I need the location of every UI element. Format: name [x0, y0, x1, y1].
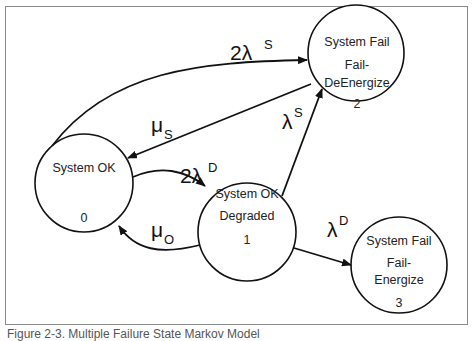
state-2: System Fail Fail- DeEnergize 2: [308, 5, 404, 111]
svg-text:D: D: [339, 213, 348, 228]
svg-text:O: O: [164, 232, 174, 247]
state-3-subtitle-2: Energize: [374, 273, 423, 287]
transition-0-to-2: [52, 60, 307, 146]
state-1-subtitle: Degraded: [220, 209, 275, 223]
figure-caption: Figure 2-3. Multiple Failure State Marko…: [7, 327, 260, 341]
rate-label-1-to-2: λ S: [282, 105, 303, 133]
state-3-subtitle-1: Fail-: [387, 256, 411, 270]
svg-text:λ: λ: [327, 218, 338, 241]
svg-text:2λ: 2λ: [230, 41, 253, 64]
state-2-number: 2: [354, 97, 361, 111]
state-1-number: 1: [244, 233, 251, 247]
svg-text:S: S: [164, 127, 173, 142]
svg-text:μ: μ: [151, 113, 163, 136]
state-2-title: System Fail: [324, 35, 389, 49]
rate-label-1-to-3: λ D: [327, 213, 348, 241]
state-0-title: System OK: [52, 161, 116, 175]
state-3-title: System Fail: [366, 234, 431, 248]
svg-text:λ: λ: [282, 110, 293, 133]
state-1: System OK Degraded 1: [198, 183, 296, 281]
state-3-number: 3: [396, 296, 403, 310]
rate-label-1-to-0: μ O: [151, 218, 174, 247]
svg-text:μ: μ: [151, 218, 163, 241]
state-2-subtitle-2: DeEnergize: [324, 76, 389, 90]
svg-text:D: D: [208, 160, 217, 175]
svg-text:2λ: 2λ: [180, 164, 203, 187]
rate-label-2-to-0: μ S: [151, 113, 173, 142]
svg-text:S: S: [294, 105, 303, 120]
rate-label-0-to-2: 2λ S: [230, 37, 273, 64]
state-0: System OK 0: [35, 134, 133, 232]
state-2-subtitle-1: Fail-: [345, 58, 369, 72]
state-1-title: System OK: [215, 187, 279, 201]
state-3: System Fail Fail- Energize 3: [351, 217, 447, 313]
state-0-number: 0: [81, 211, 88, 225]
transition-1-to-3: [294, 248, 351, 265]
rate-label-0-to-1: 2λ D: [180, 160, 217, 187]
svg-text:S: S: [264, 37, 273, 52]
